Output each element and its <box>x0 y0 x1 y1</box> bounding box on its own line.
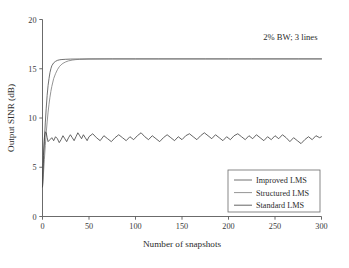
x-tick-label: 300 <box>315 222 327 231</box>
legend-label: Structured LMS <box>256 189 309 198</box>
series-line-improved-lms <box>43 59 322 187</box>
x-tick-label: 100 <box>129 222 141 231</box>
x-axis-title: Number of snapshots <box>143 239 222 249</box>
x-tick-label: 50 <box>85 222 93 231</box>
x-tick-label: 150 <box>176 222 188 231</box>
y-tick-label: 0 <box>32 213 36 222</box>
chart-canvas: 05101520 050100150200250300 Output SINR … <box>0 0 349 268</box>
legend-label: Standard LMS <box>256 201 304 210</box>
x-tick-label: 0 <box>40 222 44 231</box>
y-axis-title: Output SINR (dB) <box>6 84 16 152</box>
bandwidth-note: 2% BW; 3 lines <box>263 32 318 42</box>
data-series-group <box>43 59 322 187</box>
y-tick-label: 10 <box>28 114 36 123</box>
y-tick-label: 15 <box>28 65 36 74</box>
legend: Improved LMSStructured LMSStandard LMS <box>228 170 320 212</box>
x-tick-label: 200 <box>222 222 234 231</box>
legend-label: Improved LMS <box>256 176 307 185</box>
series-line-structured-lms <box>43 59 322 187</box>
y-tick-label: 20 <box>28 16 36 25</box>
chart-figure: 05101520 050100150200250300 Output SINR … <box>0 0 349 268</box>
x-tick-label: 250 <box>269 222 281 231</box>
x-axis-ticks: 050100150200250300 <box>40 217 327 232</box>
y-axis-ticks: 05101520 <box>28 16 42 222</box>
y-tick-label: 5 <box>32 163 36 172</box>
